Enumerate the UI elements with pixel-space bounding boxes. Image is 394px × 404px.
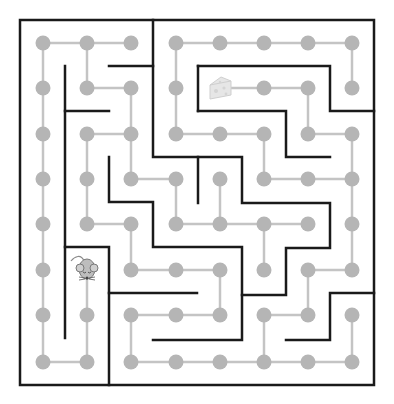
maze-node[interactable] [213, 355, 228, 370]
maze-node[interactable] [301, 217, 316, 232]
maze-node[interactable] [213, 172, 228, 187]
maze-node[interactable] [80, 127, 95, 142]
maze-node[interactable] [257, 127, 272, 142]
maze-node[interactable] [169, 263, 184, 278]
maze-node[interactable] [257, 172, 272, 187]
maze-node[interactable] [257, 308, 272, 323]
maze-node[interactable] [36, 308, 51, 323]
maze-node[interactable] [124, 308, 139, 323]
maze-node[interactable] [80, 81, 95, 96]
maze-node[interactable] [80, 355, 95, 370]
wall [286, 293, 374, 340]
maze-node[interactable] [301, 127, 316, 142]
maze-node[interactable] [257, 263, 272, 278]
maze-node[interactable] [301, 36, 316, 51]
cheese-icon [210, 77, 231, 99]
maze-node[interactable] [257, 355, 272, 370]
maze-node[interactable] [36, 127, 51, 142]
maze-node[interactable] [345, 36, 360, 51]
maze-node[interactable] [124, 36, 139, 51]
maze-node[interactable] [124, 355, 139, 370]
maze-node[interactable] [345, 355, 360, 370]
maze-node[interactable] [124, 263, 139, 278]
maze-node[interactable] [301, 308, 316, 323]
maze-node[interactable] [80, 308, 95, 323]
maze-node[interactable] [345, 172, 360, 187]
maze-node[interactable] [257, 36, 272, 51]
maze-node[interactable] [345, 263, 360, 278]
maze-node[interactable] [257, 81, 272, 96]
maze-node[interactable] [169, 81, 184, 96]
maze-node[interactable] [301, 172, 316, 187]
maze-node[interactable] [80, 172, 95, 187]
maze-node[interactable] [257, 217, 272, 232]
maze-walls [20, 20, 374, 385]
maze-node[interactable] [124, 172, 139, 187]
maze-node[interactable] [345, 217, 360, 232]
maze-node[interactable] [345, 308, 360, 323]
maze-node[interactable] [213, 308, 228, 323]
maze-node[interactable] [345, 81, 360, 96]
maze-node[interactable] [301, 355, 316, 370]
maze-node[interactable] [169, 217, 184, 232]
maze-node[interactable] [169, 36, 184, 51]
maze-board [0, 0, 394, 404]
maze-node[interactable] [36, 36, 51, 51]
maze-node[interactable] [213, 217, 228, 232]
maze-node[interactable] [36, 355, 51, 370]
maze-node[interactable] [169, 308, 184, 323]
maze-node[interactable] [36, 172, 51, 187]
maze-node[interactable] [213, 36, 228, 51]
maze-node[interactable] [301, 263, 316, 278]
maze-node[interactable] [213, 127, 228, 142]
maze-node[interactable] [124, 127, 139, 142]
maze-node[interactable] [36, 217, 51, 232]
maze-node[interactable] [169, 355, 184, 370]
maze-node[interactable] [124, 217, 139, 232]
maze-node[interactable] [80, 217, 95, 232]
maze-node[interactable] [169, 127, 184, 142]
maze-node[interactable] [301, 81, 316, 96]
maze-node[interactable] [36, 81, 51, 96]
maze-node[interactable] [80, 36, 95, 51]
maze-node[interactable] [213, 263, 228, 278]
maze-node[interactable] [124, 81, 139, 96]
mouse-icon[interactable] [71, 256, 98, 280]
maze-node[interactable] [36, 263, 51, 278]
maze-node[interactable] [345, 127, 360, 142]
maze-node[interactable] [169, 172, 184, 187]
